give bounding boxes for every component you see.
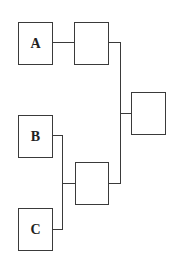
- connector-bcout-stub: [109, 183, 120, 184]
- node-b: B: [18, 115, 53, 158]
- node-a: A: [18, 22, 53, 65]
- connector-c-stub: [53, 229, 62, 230]
- connector-ab-stub: [109, 42, 120, 43]
- connector-a-ab: [53, 42, 74, 43]
- connector-b-stub: [53, 135, 62, 136]
- connector-bc-join: [62, 183, 75, 184]
- node-final: [131, 92, 166, 135]
- connector-final-join: [120, 113, 131, 114]
- node-c-label: C: [30, 222, 40, 238]
- node-ab: [74, 22, 109, 65]
- node-b-label: B: [31, 129, 40, 145]
- node-c: C: [18, 208, 53, 251]
- node-a-label: A: [30, 36, 40, 52]
- node-bc: [75, 162, 109, 205]
